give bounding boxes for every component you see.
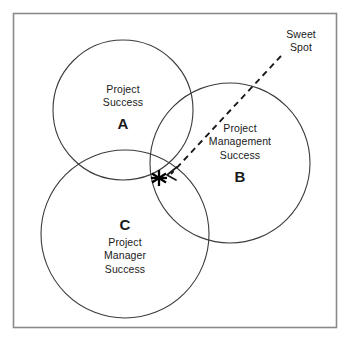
venn-diagram: Project Success A Project Management Suc… — [0, 0, 349, 344]
circle-b-label: Project Management Success — [180, 122, 300, 162]
circle-c-label: Project Manager Success — [65, 236, 185, 276]
circle-a-label: Project Success — [63, 83, 183, 110]
sweet-spot-label: Sweet Spot — [262, 28, 340, 55]
circle-a-key: A — [63, 114, 183, 133]
circle-c-key: C — [65, 215, 185, 234]
circle-b-key: B — [180, 167, 300, 186]
